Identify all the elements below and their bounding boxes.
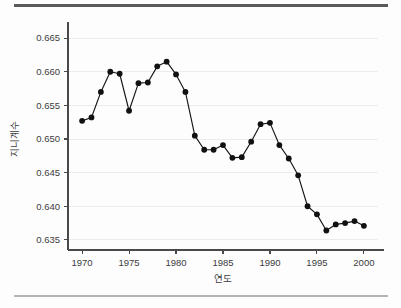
data-point-marker [173,72,179,78]
y-tick-label: 0.665 [36,32,60,43]
y-tick-label: 0.655 [36,100,60,111]
data-point-marker [248,139,254,145]
x-tick-label: 1990 [259,257,280,268]
data-point-marker [98,89,104,95]
data-point-marker [333,222,339,228]
data-point-marker [220,142,226,148]
chart-canvas: 1970197519801985199019952000 0.6350.6400… [0,0,401,308]
data-point-marker [211,147,217,153]
data-point-marker [305,203,311,209]
axes-group [68,22,384,250]
data-point-marker [295,172,301,178]
x-tick-label: 1970 [72,257,93,268]
x-tick-label: 2000 [353,257,374,268]
data-point-marker [136,80,142,86]
data-point-marker [239,154,245,160]
x-tick-label: 1995 [306,257,327,268]
data-point-marker [286,156,292,162]
y-tick-label: 0.660 [36,66,60,77]
data-point-marker [145,80,151,86]
data-point-marker [352,218,358,224]
data-point-marker [183,89,189,95]
data-point-marker [192,133,198,139]
x-tick-label: 1985 [212,257,233,268]
x-axis-title: 연도 [214,273,232,284]
data-point-marker [361,223,367,229]
data-point-marker [201,147,207,153]
y-tick-label: 0.650 [36,133,60,144]
y-axis-title: 지니계수 [9,121,20,157]
data-point-marker [126,108,132,114]
data-point-marker [258,121,264,127]
data-point-marker [323,228,329,234]
data-point-marker [164,59,170,65]
data-point-marker [276,142,282,148]
data-point-marker [154,63,160,69]
data-point-marker [89,115,95,121]
data-point-marker [79,118,85,124]
data-point-marker [107,69,113,75]
data-point-marker [342,220,348,226]
y-tick-label: 0.645 [36,167,60,178]
data-point-marker [229,155,235,161]
x-tick-label: 1975 [118,257,139,268]
bottom-divider-rule [14,295,388,297]
x-tick-label: 1980 [165,257,186,268]
data-point-marker [314,211,320,217]
data-point-marker [267,120,273,126]
data-point-marker [117,71,123,77]
y-tick-label: 0.640 [36,201,60,212]
figure-root: 1970197519801985199019952000 0.6350.6400… [0,0,401,308]
x-axis-ticks: 1970197519801985199019952000 [72,250,375,268]
y-axis-ticks: 0.6350.6400.6450.6500.6550.6600.665 [36,32,68,245]
y-tick-label: 0.635 [36,234,60,245]
gridlines-group [68,38,378,240]
